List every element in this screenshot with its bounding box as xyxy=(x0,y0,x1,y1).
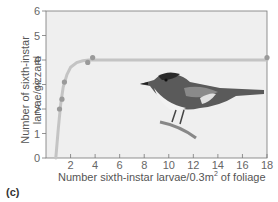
data-point xyxy=(59,97,64,102)
y-axis-label-line1: Number of sixth-instar xyxy=(19,25,31,155)
data-point xyxy=(85,60,90,65)
x-axis-label-tail: of foliage xyxy=(218,171,266,183)
panel-label: (c) xyxy=(6,186,19,198)
data-point xyxy=(264,55,269,60)
data-point xyxy=(57,106,62,111)
x-axis-label: Number sixth-instar larvae/0.3m2 of foli… xyxy=(58,170,266,183)
y-tick-label: 6 xyxy=(34,5,40,17)
data-point xyxy=(90,55,95,60)
y-axis-label: Number of sixth-instar larvae/gizzard xyxy=(19,25,43,155)
x-axis-label-main: Number sixth-instar larvae/0.3m xyxy=(58,171,214,183)
data-point xyxy=(62,79,67,84)
y-axis-label-line2: larvae/gizzard xyxy=(31,25,43,155)
